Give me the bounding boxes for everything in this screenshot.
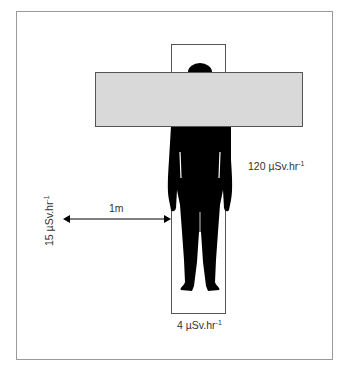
dose-side-exponent: -1 xyxy=(298,160,304,167)
dose-side-value: 120 xyxy=(248,160,266,172)
dose-label-feet: 4 µSv.hr-1 xyxy=(177,319,222,331)
dose-side-unit: µSv.hr xyxy=(268,160,298,172)
dose-1m-unit: µSv.hr xyxy=(43,202,55,232)
dose-label-side: 120 µSv.hr-1 xyxy=(248,160,304,172)
arrow-right-icon xyxy=(164,215,171,223)
dose-1m-value: 15 xyxy=(43,234,55,246)
diagram-canvas xyxy=(0,0,343,373)
dose-feet-unit: µSv.hr xyxy=(186,319,216,331)
distance-arrow xyxy=(63,215,171,223)
dose-label-1m: 15 µSv.hr-1 xyxy=(43,195,55,246)
dose-feet-value: 4 xyxy=(177,319,183,331)
dose-1m-exponent: -1 xyxy=(43,195,50,201)
gray-bar xyxy=(96,73,303,127)
arrow-left-icon xyxy=(63,215,70,223)
distance-label: 1m xyxy=(109,202,124,214)
dose-feet-exponent: -1 xyxy=(216,319,222,326)
